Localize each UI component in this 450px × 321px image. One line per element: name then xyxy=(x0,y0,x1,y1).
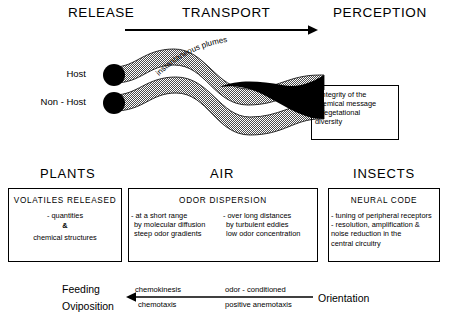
header-perception: PERCEPTION xyxy=(333,5,427,20)
section-header-plants: PLANTS xyxy=(40,166,95,181)
non-host-source-dot xyxy=(103,92,125,114)
bottom-left-label-oviposition: Oviposition xyxy=(62,300,114,312)
air-box-right-column: - over long distances by turbulent eddie… xyxy=(223,211,317,239)
bottom-positive-anemotaxis: positive anemotaxis xyxy=(225,300,292,309)
bottom-right-label-orientation: Orientation xyxy=(318,292,369,304)
air-right-line-1: - over long distances xyxy=(223,211,317,220)
insects-line-1: - tuning of peripheral receptors xyxy=(331,211,439,220)
bottom-chemotaxis: chemotaxis xyxy=(138,300,176,309)
perception-line-1: - Integrity of the xyxy=(315,90,398,99)
diagram-canvas: RELEASE TRANSPORT PERCEPTION xyxy=(0,0,450,321)
plants-box: VOLATILES RELEASED - quantities & chemic… xyxy=(8,188,122,262)
air-left-line-2: by molecular diffusion xyxy=(131,220,223,229)
svg-text:instantaneous plumes: instantaneous plumes xyxy=(155,38,228,77)
bottom-left-label-feeding: Feeding xyxy=(62,283,100,295)
plants-box-title: VOLATILES RELEASED xyxy=(9,196,121,205)
air-left-line-1: - at a short range xyxy=(131,211,223,220)
plants-line-1: - quantities xyxy=(9,211,121,220)
host-source-dot xyxy=(103,64,125,86)
perception-line-3: - Vegetational xyxy=(315,108,398,117)
air-left-line-3: steep odor gradients xyxy=(131,229,223,238)
air-right-line-3: low odor concentration xyxy=(223,229,317,238)
section-header-air: AIR xyxy=(210,166,234,181)
air-box: ODOR DISPERSION - at a short range by mo… xyxy=(128,188,318,262)
perception-line-4: diversity xyxy=(315,117,398,126)
insects-box-title: NEURAL CODE xyxy=(329,196,439,205)
insects-box: NEURAL CODE - tuning of peripheral recep… xyxy=(328,188,440,262)
plants-line-3: chemical structures xyxy=(9,233,121,242)
insects-line-2: - resolution, amplification & xyxy=(331,220,439,229)
transport-arrow-icon xyxy=(120,22,320,38)
perception-box-lines: - Integrity of the chemical message - Ve… xyxy=(312,86,398,126)
plume-source-label-host: Host xyxy=(66,68,86,79)
air-right-line-2: by turbulent eddies xyxy=(223,220,317,229)
plume-source-label-non-host: Non - Host xyxy=(41,96,86,107)
air-box-title: ODOR DISPERSION xyxy=(129,196,317,205)
plants-line-2: & xyxy=(9,221,121,230)
section-header-insects: INSECTS xyxy=(353,166,415,181)
insects-line-4: central circuitry xyxy=(331,239,439,248)
insects-line-3: noise reduction in the xyxy=(331,229,439,238)
perception-line-2: chemical message xyxy=(315,99,398,108)
bottom-odor-conditioned: odor - conditioned xyxy=(225,285,286,294)
plume-caption: instantaneous plumes xyxy=(155,38,290,78)
header-release: RELEASE xyxy=(68,5,134,20)
header-transport: TRANSPORT xyxy=(182,5,270,20)
air-box-left-column: - at a short range by molecular diffusio… xyxy=(131,211,223,239)
insects-box-lines: - tuning of peripheral receptors - resol… xyxy=(329,211,439,248)
perception-box: - Integrity of the chemical message - Ve… xyxy=(311,85,399,140)
plants-box-lines: - quantities & chemical structures xyxy=(9,211,121,242)
bottom-chemokinesis: chemokinesis xyxy=(135,285,181,294)
